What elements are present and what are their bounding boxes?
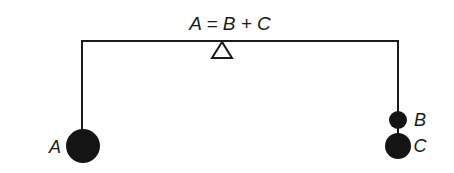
mass-c-label: C xyxy=(414,136,428,156)
mass-c xyxy=(385,133,411,159)
balance-diagram: A = B + C A B C xyxy=(0,0,454,173)
mass-b xyxy=(389,111,407,129)
mass-a xyxy=(66,129,100,163)
mass-b-label: B xyxy=(414,110,426,130)
mass-a-label: A xyxy=(48,137,61,157)
equation-title: A = B + C xyxy=(188,13,271,34)
fulcrum-triangle-icon xyxy=(212,42,232,58)
